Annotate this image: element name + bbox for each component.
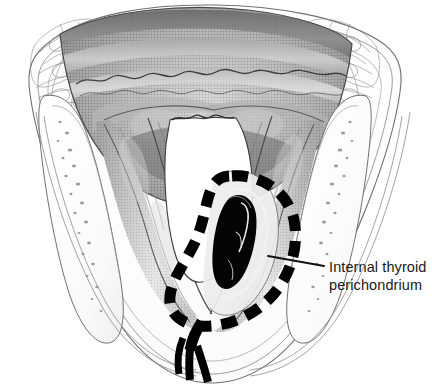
illustration-canvas: Internal thyroid perichondrium (0, 0, 446, 387)
larynx-axial-illustration (0, 0, 446, 387)
label-internal-thyroid-perichondrium: Internal thyroid perichondrium (329, 258, 427, 294)
label-line-1: Internal thyroid (329, 258, 427, 276)
label-line-2: perichondrium (329, 276, 427, 294)
